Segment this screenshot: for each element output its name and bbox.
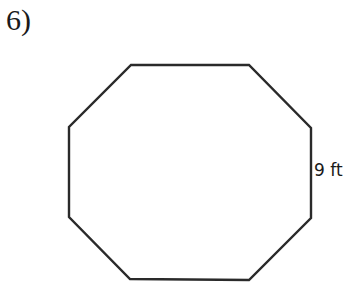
octagon-shape xyxy=(69,65,311,280)
octagon-figure xyxy=(0,0,362,290)
side-length-label: 9 ft xyxy=(314,160,343,180)
